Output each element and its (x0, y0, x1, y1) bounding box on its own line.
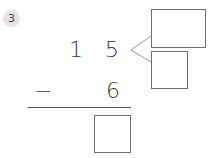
answer-box[interactable] (94, 115, 131, 153)
sum-rule (28, 107, 131, 108)
subtrahend-digit: 6 (106, 80, 120, 102)
minus-operator: − (34, 80, 52, 102)
decompose-box-top[interactable] (151, 9, 206, 48)
decompose-box-bottom[interactable] (151, 51, 188, 89)
